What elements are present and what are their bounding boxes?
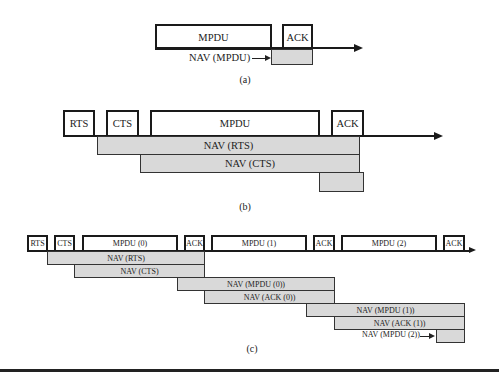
nav-label: NAV (MPDU (0)) [227,280,285,289]
arrowhead-icon [354,44,363,52]
nav-label: NAV (CTS) [120,267,158,276]
frame-label: CTS [57,239,72,248]
arrowhead-icon [434,132,443,140]
frame-label: ACK [286,32,308,43]
frame-mpdu: MPDU [150,110,320,137]
nav-ack-1: NAV (ACK (1)) [334,316,465,330]
time-axis [155,47,355,49]
nav-rts: NAV (RTS) [47,251,205,265]
nav-label: NAV (MPDU (1)) [357,306,415,315]
nav-label: NAV (CTS) [225,158,275,169]
nav-mpdu-1: NAV (MPDU (1)) [306,303,465,317]
pointer-arrowhead-icon [265,55,271,61]
arrowhead-icon [469,247,476,253]
nav-label: NAV (RTS) [204,140,253,151]
nav-mpdu-0: NAV (MPDU (0)) [177,277,335,291]
frame-label: MPDU (0) [113,239,147,248]
nav-mpdu-2 [436,329,465,343]
pointer-arrow [252,58,266,59]
frame-label: ACK [446,239,463,248]
frame-label: MPDU [198,32,228,43]
frame-label: ACK [316,239,333,248]
frame-label: MPDU (2) [372,239,406,248]
frame-label: MPDU (1) [242,239,276,248]
pointer-arrowhead-icon [429,333,435,339]
nav-label: NAV (RTS) [107,254,145,263]
frame-cts: CTS [106,110,139,137]
nav-mpdu [271,49,313,65]
frame-label: ACK [336,118,358,129]
nav-mpdu-2-label: NAV (MPDU (2)) [362,330,420,339]
frame-label: RTS [30,239,44,248]
nav-mpdu-label: NAV (MPDU) [189,52,250,63]
nav-cts: NAV (CTS) [74,264,205,278]
bottom-rule [0,369,499,372]
nav-ack-0: NAV (ACK (0)) [204,290,335,304]
frame-label: CTS [113,118,132,129]
nav-label: NAV (ACK (1)) [374,319,426,328]
caption-b: (b) [239,201,251,212]
nav-ack [319,172,364,192]
frame-label: MPDU [220,118,250,129]
frame-rts: RTS [63,110,95,137]
frame-label: ACK [186,239,203,248]
frame-ack: ACK [331,110,364,137]
nav-cts: NAV (CTS) [140,154,360,173]
caption-a: (a) [239,74,250,85]
caption-c: (c) [246,343,257,354]
nav-label: NAV (ACK (0)) [244,293,296,302]
nav-rts: NAV (RTS) [97,136,360,155]
frame-label: RTS [70,118,89,129]
